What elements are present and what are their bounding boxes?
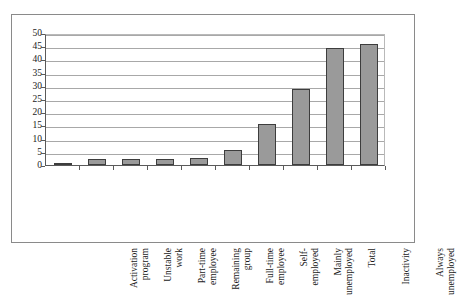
- x-axis-category-label: Part-timeemployee: [197, 248, 211, 299]
- bar: [292, 89, 310, 165]
- plot-area: [45, 34, 385, 166]
- x-axis-tick-mark: [181, 166, 182, 170]
- x-axis-tick-mark: [317, 166, 318, 170]
- x-axis-label-line-2: program: [140, 248, 151, 299]
- y-axis-tick-label: 40: [16, 55, 42, 65]
- x-axis-category-label: Unstablework: [163, 248, 177, 299]
- bar: [224, 150, 242, 165]
- bar: [360, 44, 378, 165]
- x-axis-tick-mark: [79, 166, 80, 170]
- y-axis-tick-label: 15: [16, 121, 42, 131]
- y-axis-tick-label: 35: [16, 69, 42, 79]
- x-axis-category-label: Mainlyunemployed: [333, 248, 347, 299]
- y-axis-tick-labels: 05101520253035404550: [14, 34, 42, 166]
- gridline: [46, 35, 384, 36]
- x-axis-tick-mark: [385, 166, 386, 170]
- x-axis-tick-mark: [249, 166, 250, 170]
- x-axis-label-line-1: Self-: [299, 248, 310, 299]
- x-axis-label-line-2: employee: [276, 248, 287, 299]
- bar: [156, 159, 174, 165]
- y-axis-tick-label: 5: [16, 148, 42, 158]
- y-axis-tick-label: 25: [16, 95, 42, 105]
- y-axis-tick-label: 50: [16, 29, 42, 39]
- bar: [88, 159, 106, 165]
- y-axis-tick-label: 0: [16, 161, 42, 171]
- x-axis-label-line-1: Always: [435, 248, 446, 299]
- y-axis-tick-label: 10: [16, 135, 42, 145]
- bar: [258, 124, 276, 165]
- x-axis-category-label: Alwaysunemployed: [435, 248, 449, 299]
- x-axis-label-line-2: group: [242, 248, 253, 299]
- x-axis-category-label: Total: [367, 248, 381, 299]
- x-axis-label-line-2: employed: [310, 248, 321, 299]
- bar: [122, 159, 140, 165]
- x-axis-label-line-1: Part-time: [197, 248, 208, 299]
- x-axis-label-line-1: Full-time: [265, 248, 276, 299]
- x-axis-category-label: Remaininggroup: [231, 248, 245, 299]
- x-axis-tick-mark: [215, 166, 216, 170]
- x-axis-label-line-1: Mainly: [333, 248, 344, 299]
- x-axis-label-line-1: Inactivity: [401, 248, 412, 299]
- x-axis-label-line-2: work: [174, 248, 185, 299]
- x-axis-label-line-2: employee: [208, 248, 219, 299]
- y-axis-tick-label: 30: [16, 82, 42, 92]
- y-axis-tick-label: 20: [16, 108, 42, 118]
- x-axis-category-label: Inactivity: [401, 248, 415, 299]
- x-axis-label-line-1: Remaining: [231, 248, 242, 299]
- x-axis-label-line-1: Total: [367, 248, 378, 299]
- x-axis-tick-mark: [351, 166, 352, 170]
- x-axis-tick-mark: [283, 166, 284, 170]
- bar: [326, 48, 344, 165]
- x-axis-category-label: Self-employed: [299, 248, 313, 299]
- x-axis-label-line-1: Unstable: [163, 248, 174, 299]
- x-axis-category-label: Activationprogram: [129, 248, 143, 299]
- y-axis-tick-label: 45: [16, 42, 42, 52]
- x-axis-category-label: Full-timeemployee: [265, 248, 279, 299]
- bar: [190, 158, 208, 165]
- x-axis-tick-mark: [113, 166, 114, 170]
- x-axis-label-line-2: unemployed: [344, 248, 355, 299]
- bar: [54, 163, 72, 165]
- x-axis-label-line-1: Activation: [129, 248, 140, 299]
- y-axis-tick-mark: [41, 166, 45, 167]
- x-axis-tick-mark: [147, 166, 148, 170]
- x-axis-label-line-2: unemployed: [446, 248, 457, 299]
